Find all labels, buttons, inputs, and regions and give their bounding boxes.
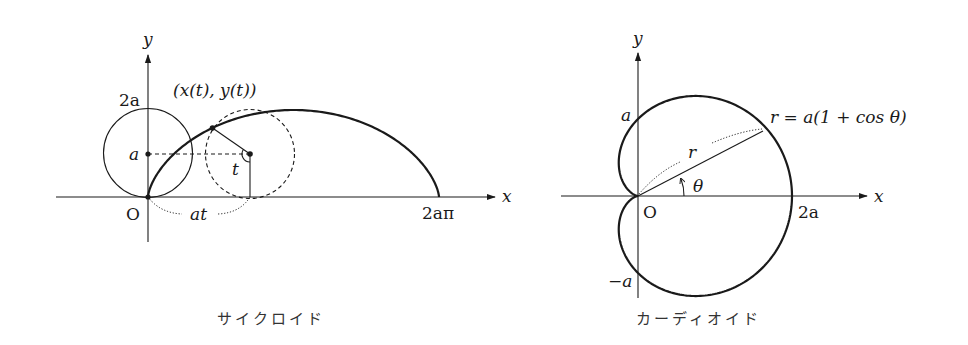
radius-dotted-arc-lower [639, 162, 680, 194]
angle-theta-label: θ [693, 176, 703, 196]
arc-length-label: at [190, 204, 207, 224]
arc-length-indicator-left [148, 197, 182, 214]
y-axis-label: y [142, 29, 153, 49]
angle-theta-arc [681, 179, 684, 196]
label-neg-a: −a [608, 271, 632, 291]
label-a: a [129, 144, 139, 164]
cycloid-figure: y x O 2a a (x(t), y(t)) t at 2aπ サイクロイド [56, 29, 512, 328]
x-axis-label: x [502, 186, 512, 206]
cardioid-figure: y x O a −a 2a r = a(1 + cos θ) r θ カーディオ… [561, 28, 907, 328]
cardioid-caption: カーディオイド [636, 310, 761, 328]
label-2a: 2a [798, 202, 819, 222]
point-label: (x(t), y(t)) [173, 80, 256, 100]
rolling-center-dot [247, 151, 253, 157]
diagram-canvas: y x O 2a a (x(t), y(t)) t at 2aπ サイクロイド … [0, 0, 968, 345]
angle-t-label: t [232, 159, 239, 179]
equation-label: r = a(1 + cos θ) [770, 107, 907, 127]
origin-label: O [643, 202, 657, 222]
radius-to-point [213, 128, 251, 154]
center-a-dot [145, 151, 150, 156]
origin-label: O [126, 204, 140, 224]
cycloid-caption: サイクロイド [217, 310, 325, 328]
label-2a: 2a [119, 90, 140, 110]
label-a: a [621, 105, 631, 125]
origin-dot [145, 194, 150, 199]
end-label-2api: 2aπ [422, 203, 454, 223]
curve-point-dot [210, 125, 216, 131]
y-axis-label: y [632, 28, 643, 48]
x-axis-label: x [874, 186, 884, 206]
arc-length-indicator-right [218, 197, 250, 214]
radius-label: r [688, 142, 697, 162]
